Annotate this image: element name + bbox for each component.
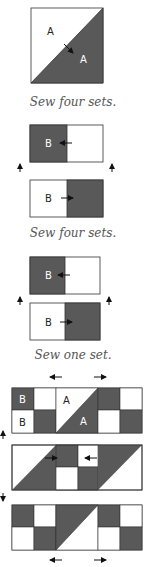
step1-half-square-triangle: A A: [31, 8, 103, 83]
label-a-dark: A: [80, 54, 87, 65]
label-b-light: B: [45, 317, 52, 328]
label-a-dark: A: [80, 416, 87, 427]
label-a-light: A: [63, 395, 70, 406]
label-b-light: B: [45, 193, 52, 204]
row-1: B B A A: [12, 388, 142, 433]
step3-two-patch-units: B B: [20, 257, 109, 340]
label-b-light: B: [19, 417, 26, 428]
step1-caption: Sew four sets.: [0, 95, 146, 109]
step4-block-assembly: B B A A: [3, 377, 142, 560]
step3-caption: Sew one set.: [0, 348, 146, 362]
step2-caption: Sew four sets.: [0, 226, 146, 240]
quilt-assembly-diagram: A A B B B B: [0, 0, 146, 567]
step2-two-patch-units: B B: [20, 125, 112, 217]
label-a-light: A: [47, 26, 54, 37]
label-b-dark: B: [45, 138, 52, 149]
row-2: [12, 445, 142, 490]
row-3: [12, 505, 142, 550]
label-b-dark: B: [19, 394, 26, 405]
label-b-dark: B: [45, 270, 52, 281]
